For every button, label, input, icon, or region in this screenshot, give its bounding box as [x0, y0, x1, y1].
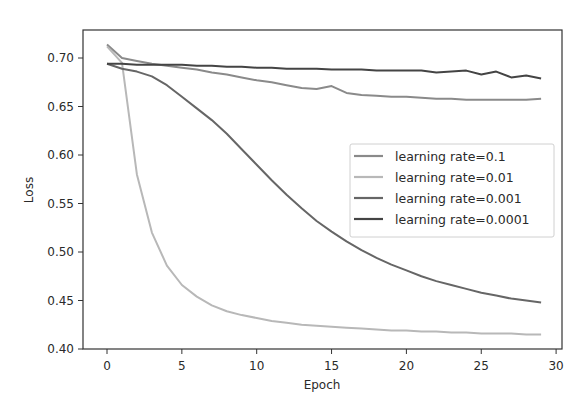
y-tick-label: 0.45 — [47, 294, 74, 308]
y-tick-label: 0.65 — [47, 100, 74, 114]
x-tick-label: 10 — [249, 359, 264, 373]
x-tick-label: 20 — [399, 359, 414, 373]
legend: learning rate=0.1learning rate=0.01learn… — [350, 144, 554, 237]
y-tick-label: 0.60 — [47, 148, 74, 162]
x-tick-label: 5 — [178, 359, 186, 373]
legend-label: learning rate=0.1 — [395, 149, 506, 164]
y-tick-label: 0.70 — [47, 51, 74, 65]
y-tick-label: 0.40 — [47, 342, 74, 356]
loss-line-chart: 051015202530 0.400.450.500.550.600.650.7… — [0, 0, 587, 415]
y-axis-label: Loss — [22, 177, 36, 203]
legend-label: learning rate=0.001 — [395, 191, 522, 206]
x-tick-label: 0 — [103, 359, 111, 373]
x-tick-label: 15 — [324, 359, 339, 373]
legend-label: learning rate=0.01 — [395, 170, 514, 185]
y-tick-label: 0.55 — [47, 197, 74, 211]
legend-label: learning rate=0.0001 — [395, 212, 530, 227]
y-tick-label: 0.50 — [47, 245, 74, 259]
x-axis-label: Epoch — [304, 378, 341, 392]
x-tick-label: 30 — [548, 359, 563, 373]
x-tick-label: 25 — [474, 359, 489, 373]
